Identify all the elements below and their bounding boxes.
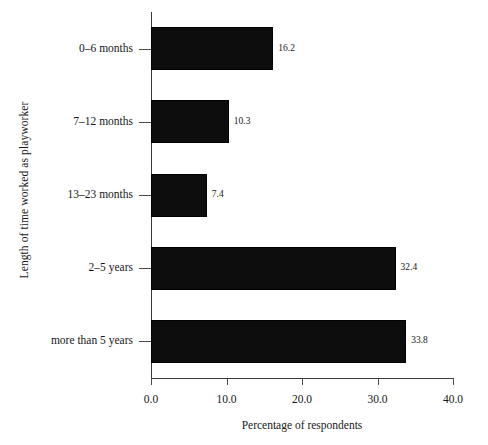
- x-axis-tick: [453, 378, 454, 385]
- x-axis-tick: [151, 378, 152, 385]
- x-axis-tick: [302, 378, 303, 385]
- x-axis-tick: [378, 378, 379, 385]
- x-axis-tick-label: 40.0: [423, 394, 483, 406]
- y-axis-tick-label: 13–23 months: [20, 189, 133, 201]
- bar-chart-figure: Length of time worked as playworker Perc…: [0, 0, 488, 445]
- y-axis-tick-label: 0–6 months: [20, 43, 133, 55]
- y-axis-tick-label: more than 5 years: [20, 335, 133, 347]
- x-axis-tick-label: 0.0: [121, 394, 181, 406]
- bar-value-label: 32.4: [401, 263, 418, 273]
- bar-value-label: 33.8: [411, 336, 428, 346]
- y-axis-tick: [139, 195, 151, 196]
- x-axis-tick-label: 10.0: [197, 394, 257, 406]
- x-axis-tick-label: 30.0: [348, 394, 408, 406]
- y-axis-tick: [139, 122, 151, 123]
- bar: [151, 27, 273, 70]
- bar-value-label: 7.4: [212, 190, 224, 200]
- bar-value-label: 16.2: [278, 44, 295, 54]
- bar: [151, 100, 229, 143]
- y-axis-tick-label: 2–5 years: [20, 262, 133, 274]
- bar: [151, 174, 207, 217]
- x-axis-tick-label: 20.0: [272, 394, 332, 406]
- y-axis-tick: [139, 268, 151, 269]
- y-axis-tick-label: 7–12 months: [20, 116, 133, 128]
- y-axis-tick: [139, 341, 151, 342]
- y-axis-tick: [139, 49, 151, 50]
- bar-value-label: 10.3: [234, 117, 251, 127]
- bar: [151, 320, 406, 363]
- bar: [151, 247, 396, 290]
- x-axis-title: Percentage of respondents: [151, 419, 453, 431]
- x-axis-tick: [227, 378, 228, 385]
